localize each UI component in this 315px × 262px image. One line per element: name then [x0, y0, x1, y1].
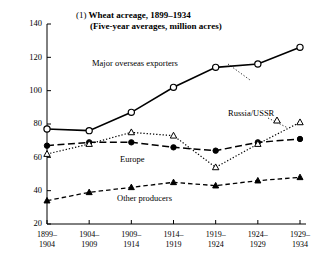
marker-russia-ussr	[44, 151, 50, 157]
marker-other-producers	[255, 177, 261, 183]
y-tick-label: 80	[34, 118, 43, 128]
y-tick-label: 60	[34, 152, 43, 162]
marker-other-producers	[297, 174, 303, 180]
x-tick-label-top: 1904–	[79, 230, 100, 239]
marker-europe	[171, 145, 176, 150]
x-tick-label-top: 1914–	[164, 230, 185, 239]
annotation-russia: Russia/USSR	[228, 108, 274, 118]
x-tick-label-top: 1929–	[290, 230, 311, 239]
marker-europe	[44, 143, 49, 148]
annotation-other: Other producers	[117, 193, 172, 203]
marker-europe	[297, 136, 302, 141]
legend-marker-russia-ussr	[274, 117, 281, 123]
marker-russia-ussr	[128, 129, 134, 135]
chart-canvas: 20406080100120140 1899–19041904–19091909…	[0, 0, 315, 262]
x-tick-label-bottom: 1934	[292, 240, 308, 249]
axis-lines	[47, 24, 306, 224]
x-tick-label-top: 1899–	[37, 230, 58, 239]
x-tick-label-top: 1909–	[121, 230, 142, 239]
x-tick-label-bottom: 1929	[250, 240, 266, 249]
marker-major-overseas-exporters	[128, 109, 134, 115]
marker-major-overseas-exporters	[297, 44, 303, 50]
marker-russia-ussr	[170, 132, 176, 138]
y-tick-label: 140	[29, 18, 42, 28]
plot-series	[44, 44, 303, 203]
y-tick-label: 20	[34, 218, 43, 228]
x-tick-label-bottom: 1909	[81, 240, 97, 249]
x-tick-label-top: 1919–	[206, 230, 227, 239]
marker-major-overseas-exporters	[44, 126, 50, 132]
chart-figure: (1) Wheat acreage, 1899–1934 (Five-year …	[0, 0, 315, 262]
annotation-exporters: Major overseas exporters	[92, 58, 178, 68]
x-tick-label-bottom: 1914	[123, 240, 139, 249]
marker-russia-ussr	[297, 119, 303, 125]
y-tick-label: 120	[29, 52, 42, 62]
x-tick-label-top: 1924–	[248, 230, 269, 239]
marker-major-overseas-exporters	[255, 61, 261, 67]
y-tick-label: 100	[29, 85, 42, 95]
marker-major-overseas-exporters	[86, 128, 92, 134]
y-tick-label: 40	[34, 185, 43, 195]
y-axis-ticks: 20406080100120140	[29, 18, 51, 228]
marker-europe	[129, 140, 134, 145]
marker-major-overseas-exporters	[213, 64, 219, 70]
annotation-europe: Europe	[120, 154, 145, 164]
marker-europe	[213, 148, 218, 153]
marker-russia-ussr	[212, 164, 218, 170]
x-tick-label-bottom: 1924	[208, 240, 224, 249]
leader-exporters	[228, 64, 250, 80]
marker-major-overseas-exporters	[170, 84, 176, 90]
marker-other-producers	[128, 184, 134, 190]
chart-axes	[47, 24, 306, 224]
x-tick-label-bottom: 1919	[166, 240, 182, 249]
x-tick-label-bottom: 1904	[39, 240, 55, 249]
